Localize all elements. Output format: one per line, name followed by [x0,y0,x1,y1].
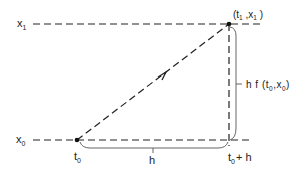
t0-label: t0 [74,150,81,164]
end-point-label: (t1 ,x1 ) [233,9,263,21]
start-point [75,138,80,143]
t0-plus-h-label: t0+ h [228,151,252,165]
x1-label: x1 [17,17,27,31]
direction-arrow-icon [158,72,166,80]
end-point [227,22,232,27]
euler-step-diagram: x1 x0 (t1 ,x1 ) h f (t0,x0) t0 h t0+ h [0,0,308,177]
vertical-brace [230,27,236,140]
vertical-increment-label: h f (t0,x0) [246,79,290,92]
x0-label: x0 [16,133,26,147]
euler-step-line [77,24,229,140]
step-size-label: h [149,154,155,166]
horizontal-brace [80,142,228,148]
